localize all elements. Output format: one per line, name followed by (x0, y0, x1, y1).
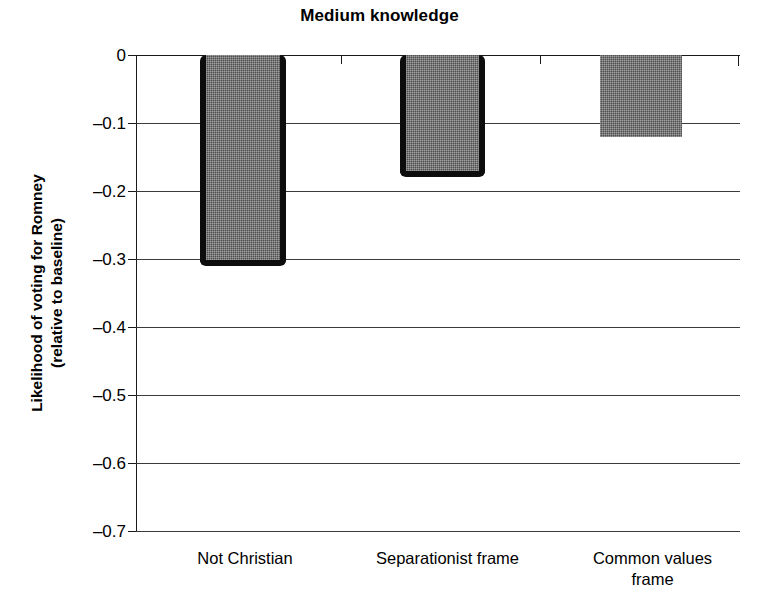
y-axis-title-line-2: (relative to baseline) (47, 78, 67, 508)
y-tick-0.4 (128, 327, 136, 328)
y-tick-0.7 (128, 531, 136, 532)
x-tick-end (738, 55, 739, 66)
y-tick-0.6 (128, 463, 136, 464)
y-tick-0 (128, 55, 136, 56)
y-tick-label-0.4: –0.4 (93, 319, 126, 336)
gridline-0.4 (136, 327, 740, 328)
x-tick-separator-1 (341, 55, 342, 64)
bar-separationist-frame[interactable] (400, 55, 485, 177)
x-tick-separator-2 (540, 55, 541, 64)
y-axis-title: Likelihood of voting for Romney (relativ… (27, 78, 67, 508)
y-tick-label-0.5: –0.5 (93, 387, 126, 404)
gridline-0.6 (136, 463, 740, 464)
plot-area: 0 –0.1 –0.2 –0.3 –0.4 –0.5 –0.6 –0.7 (136, 55, 740, 531)
gridline-0.7 (136, 531, 740, 532)
y-tick-label-0.6: –0.6 (93, 455, 126, 472)
y-tick-label-0.7: –0.7 (93, 523, 126, 540)
y-tick-label-0.3: –0.3 (93, 251, 126, 268)
y-tick-0.1 (128, 123, 136, 124)
y-axis-spine (136, 55, 137, 531)
bar-not-christian[interactable] (200, 55, 286, 266)
chart-title: Medium knowledge (0, 6, 759, 26)
x-label-separationist-frame: Separationist frame (340, 548, 555, 569)
y-tick-label-0: 0 (117, 47, 126, 64)
y-tick-label-0.1: –0.1 (93, 115, 126, 132)
y-axis-title-line-1: Likelihood of voting for Romney (27, 78, 47, 508)
x-label-not-christian: Not Christian (155, 548, 335, 569)
y-tick-label-0.2: –0.2 (93, 183, 126, 200)
bar-chart: Medium knowledge Likelihood of voting fo… (0, 0, 759, 605)
y-tick-0.3 (128, 259, 136, 260)
bar-common-values-frame[interactable] (600, 55, 682, 137)
gridline-0.5 (136, 395, 740, 396)
y-tick-0.2 (128, 191, 136, 192)
y-tick-0.5 (128, 395, 136, 396)
x-label-common-values-frame: Common values frame (560, 548, 745, 590)
